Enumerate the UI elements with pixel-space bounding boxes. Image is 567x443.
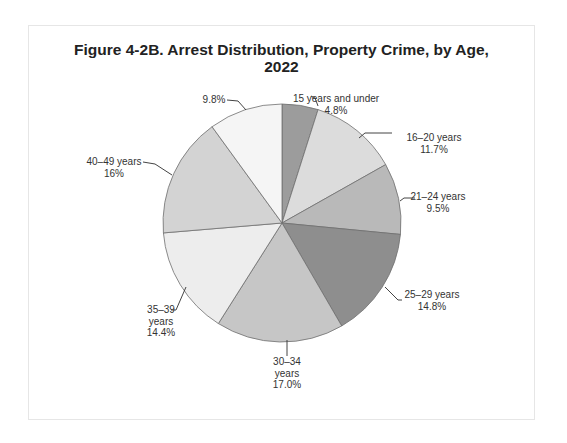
slice-label: 35–39years14.4% — [147, 304, 176, 338]
slice-label: 16–20 years11.7% — [406, 132, 461, 155]
slice-label-line: 16% — [104, 168, 124, 179]
slice-label: 21–24 years9.5% — [410, 191, 465, 214]
slice-label-line: 15 years and under — [293, 93, 380, 104]
slice-label-line: 40–49 years — [86, 156, 141, 167]
slice-label-line: 11.7% — [420, 144, 448, 155]
slice-label-line: years — [275, 368, 299, 379]
leader-line — [227, 100, 246, 110]
slice-label-line: years — [149, 316, 173, 327]
pie-slices — [163, 104, 401, 342]
slice-label-line: 4.8% — [325, 105, 348, 116]
slice-label-line: 9.5% — [427, 203, 450, 214]
slice-label-line: 14.4% — [147, 327, 175, 338]
slice-label-line: 21–24 years — [410, 191, 465, 202]
slice-label-line: 17.0% — [273, 379, 301, 390]
slice-label-line: 9.8% — [203, 94, 226, 105]
leader-line — [385, 287, 402, 300]
slice-label-line: 16–20 years — [406, 132, 461, 143]
slice-label: 40–49 years16% — [86, 156, 141, 179]
pie-chart: 15 years and under4.8%16–20 years11.7%21… — [0, 0, 567, 443]
slice-label: 30–34years17.0% — [273, 356, 302, 390]
slice-label-line: 35–39 — [147, 304, 175, 315]
slice-label: 9.8% — [203, 94, 226, 105]
slice-label-line: 25–29 years — [404, 289, 459, 300]
leader-line — [143, 162, 172, 175]
slice-label: 25–29 years14.8% — [404, 289, 459, 312]
slice-label-line: 14.8% — [418, 301, 446, 312]
slice-label-line: 30–34 — [273, 356, 301, 367]
